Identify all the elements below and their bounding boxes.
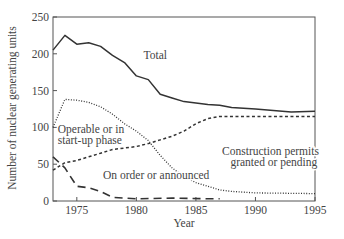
y-tick-label: 0 — [43, 195, 49, 207]
x-tick-label: 1975 — [65, 204, 88, 216]
x-tick-label: 1980 — [125, 204, 148, 216]
annotations: TotalOperable or instart-up phaseOn orde… — [58, 49, 320, 181]
y-axis-title: Number of nuclear generating units — [6, 26, 19, 190]
annotation-label: Total — [144, 49, 167, 61]
y-tick-label: 100 — [32, 121, 50, 133]
y-tick-label: 250 — [32, 11, 50, 23]
x-axis-title: Year — [173, 217, 194, 229]
annotation-label: granted or pending — [230, 156, 317, 169]
x-tick-label: 1990 — [244, 204, 267, 216]
line-chart: 05010015020025019751980198519901995 Tota… — [0, 0, 344, 239]
axes: 05010015020025019751980198519901995 — [32, 11, 327, 216]
y-tick-label: 50 — [38, 158, 50, 170]
x-tick-label: 1985 — [184, 204, 207, 216]
y-tick-label: 200 — [32, 48, 50, 60]
series-line-total — [53, 35, 315, 112]
x-tick-label: 1995 — [304, 204, 327, 216]
annotation-label: start-up phase — [58, 134, 122, 147]
annotation-label: On order or announced — [103, 169, 210, 181]
y-tick-label: 150 — [32, 85, 50, 97]
